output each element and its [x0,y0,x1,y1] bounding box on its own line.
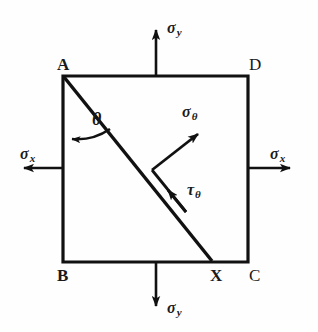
corner-label-a: A [57,56,69,73]
sigma-theta-label: σθ [182,104,196,120]
sigma-y-bottom-label: σy [167,300,181,316]
corner-label-b: B [57,267,68,284]
sigma-theta-arrow [152,134,198,170]
sigma-x-left-subscript: x [30,152,36,164]
sigma-y-top-label: σy [167,20,181,36]
sigma-x-right-symbol: σ [270,145,279,162]
sigma-x-left-label: σx [20,146,34,162]
sigma-x-right-subscript: x [280,152,286,164]
corner-label-d: D [249,56,261,73]
sigma-x-left-symbol: σ [20,145,29,162]
stress-element-figure: A D B C X θ σy σy σx σx σθ τθ [0,0,318,332]
corner-label-c: C [249,267,260,284]
sigma-y-top-symbol: σ [167,19,176,36]
sigma-y-bottom-symbol: σ [167,299,176,316]
sigma-y-bottom-subscript: y [177,306,182,318]
sigma-theta-subscript: θ [192,110,198,122]
plane-endpoint-label-x: X [210,267,222,284]
tau-theta-label: τθ [187,182,200,198]
tau-theta-symbol: τ [187,181,194,198]
sigma-x-right-label: σx [270,146,284,162]
sigma-y-top-subscript: y [177,26,182,38]
theta-arc [72,129,110,139]
theta-angle-label: θ [92,110,101,128]
sigma-theta-symbol: σ [182,103,191,120]
tau-theta-subscript: θ [195,188,201,200]
stress-diagram-canvas [0,0,318,332]
